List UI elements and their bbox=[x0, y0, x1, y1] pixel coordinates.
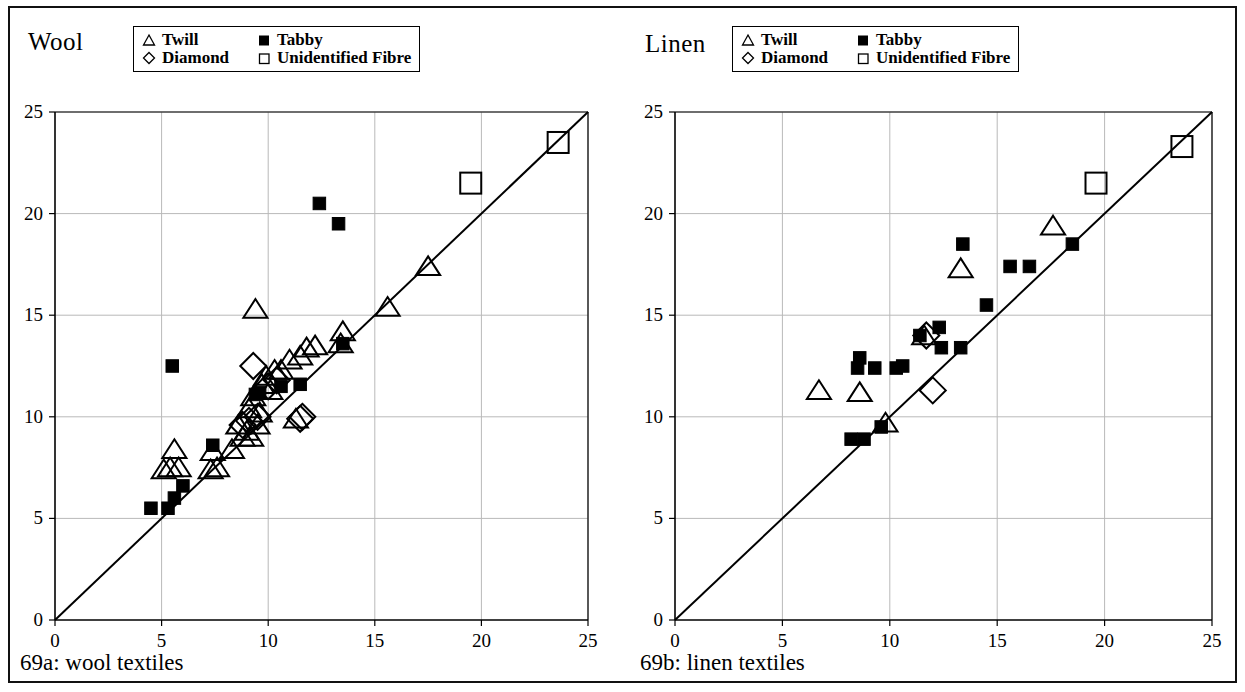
data-point-square-filled bbox=[253, 386, 266, 399]
data-point-square-filled bbox=[957, 238, 970, 251]
x-axis-tick-label: 0 bbox=[30, 630, 80, 652]
data-point-diamond-open bbox=[920, 377, 946, 403]
chart-canvas-linen bbox=[675, 112, 1212, 620]
reference-line bbox=[675, 112, 1212, 620]
square-filled-icon bbox=[257, 33, 271, 47]
data-point-square-filled bbox=[166, 360, 179, 373]
x-axis-tick-label: 0 bbox=[650, 630, 700, 652]
data-point-square-filled bbox=[845, 433, 858, 446]
data-point-triangle-open bbox=[376, 297, 400, 316]
data-point-square-filled bbox=[145, 502, 158, 515]
legend-label-diamond: Diamond bbox=[761, 49, 828, 66]
legend-label-twill: Twill bbox=[162, 31, 199, 48]
x-axis-tick-label: 5 bbox=[137, 630, 187, 652]
y-axis-tick-label: 10 bbox=[621, 406, 663, 428]
data-point-square-filled bbox=[853, 352, 866, 365]
x-axis-tick-label: 25 bbox=[563, 630, 613, 652]
triangle-open-icon bbox=[741, 33, 755, 47]
plot-area-linen bbox=[675, 112, 1212, 620]
data-point-square-filled bbox=[207, 439, 220, 452]
y-axis-tick-label: 0 bbox=[1, 609, 43, 631]
legend-label-unidentified-fibre: Unidentified Fibre bbox=[876, 49, 1010, 66]
legend-item-diamond: Diamond bbox=[142, 49, 229, 66]
legend-label-diamond: Diamond bbox=[162, 49, 229, 66]
y-axis-tick-label: 5 bbox=[621, 507, 663, 529]
y-axis-tick-label: 20 bbox=[1, 203, 43, 225]
data-point-triangle-open bbox=[807, 380, 831, 399]
x-axis-tick-label: 20 bbox=[1080, 630, 1130, 652]
data-point-square-open bbox=[1086, 173, 1107, 194]
triangle-open-icon bbox=[142, 33, 156, 47]
legend-item-unidentified-fibre: Unidentified Fibre bbox=[257, 49, 411, 66]
data-point-square-filled bbox=[935, 341, 948, 354]
legend-item-twill: Twill bbox=[741, 31, 828, 48]
data-point-square-filled bbox=[294, 378, 307, 391]
data-point-square-filled bbox=[337, 337, 350, 350]
data-point-triangle-open bbox=[848, 382, 872, 401]
data-point-square-filled bbox=[954, 341, 967, 354]
y-axis-tick-label: 10 bbox=[1, 406, 43, 428]
data-point-square-open bbox=[548, 132, 569, 153]
x-axis-tick-label: 25 bbox=[1187, 630, 1237, 652]
square-open-icon bbox=[257, 51, 271, 65]
panel-linen: Linen Twill Ta bbox=[622, 0, 1245, 692]
legend-item-tabby: Tabby bbox=[257, 31, 411, 48]
panel-caption-wool: 69a: wool textiles bbox=[20, 650, 184, 676]
diamond-open-icon bbox=[741, 51, 755, 65]
data-point-square-filled bbox=[875, 421, 888, 434]
panel-title-wool: Wool bbox=[28, 28, 84, 56]
data-point-square-filled bbox=[914, 329, 927, 342]
data-point-square-filled bbox=[858, 433, 871, 446]
legend-item-unidentified-fibre: Unidentified Fibre bbox=[856, 49, 1010, 66]
data-point-square-filled bbox=[313, 197, 326, 210]
legend-item-tabby: Tabby bbox=[856, 31, 1010, 48]
panel-wool: Wool Twill Tab bbox=[0, 0, 622, 692]
legend-label-unidentified-fibre: Unidentified Fibre bbox=[277, 49, 411, 66]
plot-area-wool bbox=[55, 112, 588, 620]
series-unidentified-fibre bbox=[460, 132, 568, 194]
data-point-triangle-open bbox=[162, 439, 186, 458]
panel-title-linen: Linen bbox=[645, 30, 706, 58]
legend-label-tabby: Tabby bbox=[277, 31, 323, 48]
legend-item-twill: Twill bbox=[142, 31, 229, 48]
legend-label-tabby: Tabby bbox=[876, 31, 922, 48]
y-axis-tick-label: 15 bbox=[621, 304, 663, 326]
reference-line bbox=[55, 112, 588, 620]
legend-linen: Twill Tabby Diamon bbox=[732, 26, 1019, 72]
legend-grid: Twill Tabby Diamon bbox=[142, 31, 411, 66]
x-axis-tick-label: 20 bbox=[456, 630, 506, 652]
legend-label-twill: Twill bbox=[761, 31, 798, 48]
series-diamond bbox=[230, 353, 316, 438]
series-twill bbox=[152, 256, 440, 478]
y-axis-tick-label: 15 bbox=[1, 304, 43, 326]
data-point-square-filled bbox=[896, 360, 909, 373]
data-point-square-filled bbox=[177, 480, 190, 493]
data-point-triangle-open bbox=[1041, 216, 1065, 235]
data-point-square-filled bbox=[332, 218, 345, 231]
chart-canvas-wool bbox=[55, 112, 588, 620]
data-point-square-open bbox=[460, 173, 481, 194]
data-point-square-filled bbox=[168, 492, 181, 505]
x-axis-tick-label: 5 bbox=[757, 630, 807, 652]
x-axis-tick-label: 10 bbox=[243, 630, 293, 652]
square-filled-icon bbox=[856, 33, 870, 47]
x-axis-tick-label: 10 bbox=[865, 630, 915, 652]
diamond-open-icon bbox=[142, 51, 156, 65]
y-axis-tick-label: 25 bbox=[1, 101, 43, 123]
y-axis-tick-label: 5 bbox=[1, 507, 43, 529]
legend-grid: Twill Tabby Diamon bbox=[741, 31, 1010, 66]
y-axis-tick-label: 0 bbox=[621, 609, 663, 631]
x-axis-tick-label: 15 bbox=[972, 630, 1022, 652]
data-point-square-filled bbox=[1066, 238, 1079, 251]
legend-wool: Twill Tabby Diamon bbox=[133, 26, 420, 72]
series-tabby bbox=[845, 238, 1079, 446]
y-axis-tick-label: 20 bbox=[621, 203, 663, 225]
panel-caption-linen: 69b: linen textiles bbox=[640, 650, 805, 676]
legend-item-diamond: Diamond bbox=[741, 49, 828, 66]
data-point-square-filled bbox=[980, 299, 993, 312]
y-axis-tick-label: 25 bbox=[621, 101, 663, 123]
data-point-square-filled bbox=[1023, 260, 1036, 273]
square-open-icon bbox=[856, 51, 870, 65]
data-point-triangle-open bbox=[167, 458, 191, 477]
figure-root: Wool Twill Tab bbox=[0, 0, 1245, 692]
